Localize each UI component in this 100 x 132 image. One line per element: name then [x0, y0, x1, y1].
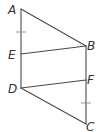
segment-EB [21, 46, 86, 54]
label-C: C [86, 120, 95, 132]
label-D: D [8, 82, 17, 96]
geometry-diagram: A B E D F C [0, 0, 100, 132]
label-E: E [8, 48, 16, 62]
label-B: B [87, 39, 95, 53]
segment-DC [21, 88, 86, 124]
segment-DF [21, 80, 86, 88]
segments [21, 9, 86, 124]
point-labels: A B E D F C [7, 3, 95, 132]
segment-AB [21, 9, 86, 46]
label-A: A [7, 3, 16, 17]
label-F: F [87, 73, 95, 87]
